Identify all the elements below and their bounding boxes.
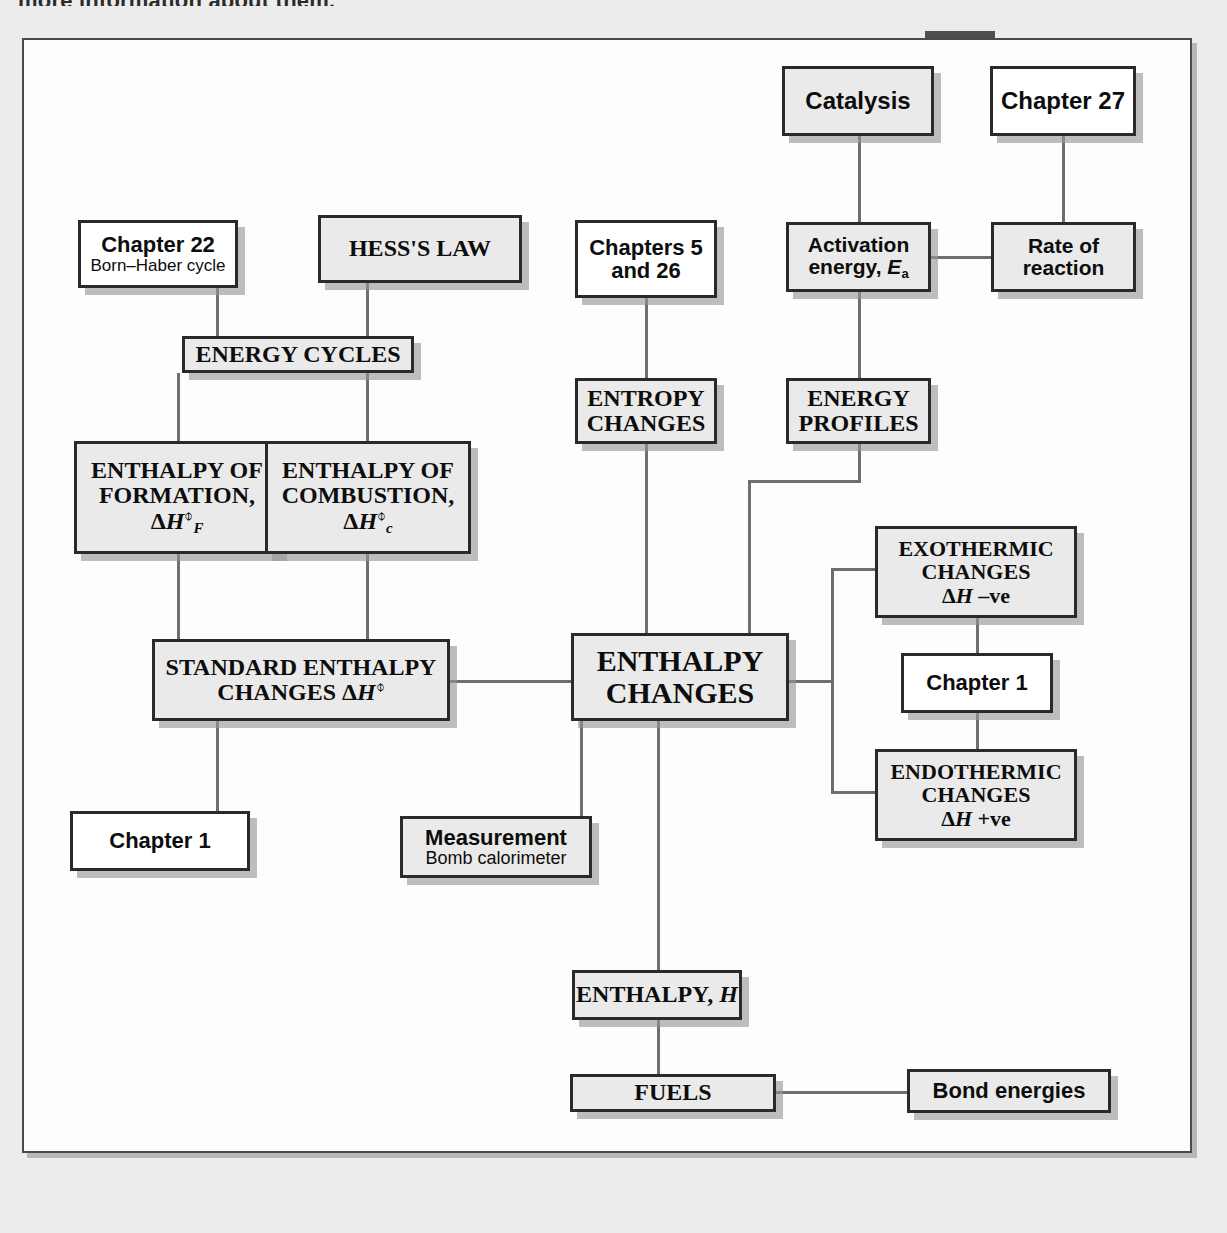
node-chapter-1-left-label: Chapter 1 (109, 829, 210, 852)
page-background: more information about them. (0, 0, 1227, 1233)
node-enthalpy-of-combustion-symbol: ΔH⌽c (343, 509, 392, 537)
node-enthalpy-of-formation-label: ENTHALPY OF (91, 458, 263, 483)
node-bond-energies[interactable]: Bond energies (907, 1069, 1111, 1113)
node-enthalpy-of-combustion-label: ENTHALPY OF (282, 458, 454, 483)
edge-energycycles-combustion (366, 373, 369, 441)
edge-enthalpychanges-enthalpyH (657, 721, 660, 970)
edge-energyprofiles-seg3 (748, 480, 751, 639)
diagram-canvas: Catalysis Chapter 27 Chapter 22 Born–Hab… (0, 0, 1227, 1233)
node-chapter-22-subtitle: Born–Haber cycle (90, 257, 225, 275)
node-energy-profiles-label2: PROFILES (798, 411, 918, 436)
node-activation-energy-label: Activation (808, 234, 910, 256)
node-standard-enthalpy-changes[interactable]: STANDARD ENTHALPY CHANGES ΔH⌽ (152, 639, 450, 721)
edge-standard-enthalpychanges (450, 680, 572, 683)
node-rate-of-reaction[interactable]: Rate of reaction (991, 222, 1136, 292)
edge-standard-chapter1left (216, 721, 219, 811)
edge-chapters5and26-entropy (645, 298, 648, 378)
node-exothermic-changes[interactable]: EXOTHERMIC CHANGES ΔH –ve (875, 526, 1077, 618)
node-chapter-1-right[interactable]: Chapter 1 (901, 653, 1053, 713)
node-energy-profiles[interactable]: ENERGY PROFILES (786, 378, 931, 444)
node-energy-cycles[interactable]: ENERGY CYCLES (182, 336, 414, 373)
node-chapter-1-right-label: Chapter 1 (926, 671, 1027, 694)
edge-bracket-exothermic (831, 568, 877, 571)
node-exothermic-changes-symbol: ΔH –ve (942, 584, 1010, 607)
edge-entropy-enthalpychanges (645, 444, 648, 639)
node-entropy-changes-label2: CHANGES (587, 411, 706, 436)
node-exothermic-changes-label: EXOTHERMIC (898, 537, 1053, 560)
node-endothermic-changes-label2: CHANGES (922, 783, 1031, 806)
edge-activation-rate (931, 256, 991, 259)
node-chapter-22-label: Chapter 22 (101, 233, 215, 256)
node-rate-of-reaction-label2: reaction (1023, 257, 1105, 279)
node-chapter-1-left[interactable]: Chapter 1 (70, 811, 250, 871)
node-measurement-subtitle: Bomb calorimeter (425, 849, 566, 868)
edge-bracket-endothermic (831, 791, 877, 794)
node-enthalpy-of-formation-label2: FORMATION, (99, 483, 255, 508)
edge-chapter1right-endothermic (976, 713, 979, 749)
node-enthalpy-of-formation-symbol: ΔH⌽F (151, 509, 204, 537)
edge-fuels-bondenergies (775, 1091, 909, 1094)
node-endothermic-changes-label: ENDOTHERMIC (890, 760, 1061, 783)
node-chapter-22[interactable]: Chapter 22 Born–Haber cycle (78, 220, 238, 288)
node-standard-enthalpy-changes-label: STANDARD ENTHALPY (166, 655, 437, 680)
node-measurement[interactable]: Measurement Bomb calorimeter (400, 816, 592, 878)
node-energy-profiles-label: ENERGY (807, 386, 910, 411)
node-enthalpy-changes[interactable]: ENTHALPY CHANGES (571, 633, 789, 721)
node-fuels-label: FUELS (634, 1080, 711, 1105)
node-chapter-27[interactable]: Chapter 27 (990, 66, 1136, 136)
edge-energyprofiles-seg2 (748, 480, 861, 483)
node-hess-law-label: HESS'S LAW (349, 236, 491, 261)
node-entropy-changes-label: ENTROPY (587, 386, 704, 411)
edge-activation-energyprofiles (858, 292, 861, 378)
node-fuels[interactable]: FUELS (570, 1074, 776, 1112)
node-activation-energy[interactable]: Activation energy, Ea (786, 222, 931, 292)
edge-chapter22-energycycles (216, 288, 219, 336)
node-energy-cycles-label: ENERGY CYCLES (195, 342, 400, 367)
node-enthalpy-h[interactable]: ENTHALPY, H (572, 970, 742, 1020)
edge-hess-energycycles (366, 283, 369, 336)
edge-enthalpyH-fuels (657, 1020, 660, 1074)
edge-energyprofiles-seg1 (858, 444, 861, 482)
edge-formation-standard (177, 554, 180, 639)
node-chapters-5-and-26-label: Chapters 5 (589, 236, 703, 259)
node-catalysis[interactable]: Catalysis (782, 66, 934, 136)
edge-combustion-standard (366, 554, 369, 639)
node-hess-law[interactable]: HESS'S LAW (318, 215, 522, 283)
node-chapters-5-and-26[interactable]: Chapters 5 and 26 (575, 220, 717, 298)
node-enthalpy-of-combustion-label2: COMBUSTION, (282, 483, 455, 508)
edge-enthalpychanges-bracket-stub (788, 680, 833, 683)
edge-right-bracket-vertical (831, 568, 834, 794)
node-enthalpy-changes-label: ENTHALPY (597, 645, 764, 677)
edge-catalysis-activation (858, 135, 861, 225)
node-enthalpy-of-combustion[interactable]: ENTHALPY OF COMBUSTION, ΔH⌽c (265, 441, 471, 554)
node-exothermic-changes-label2: CHANGES (922, 560, 1031, 583)
node-bond-energies-label: Bond energies (933, 1079, 1086, 1102)
node-chapter-27-label: Chapter 27 (1001, 88, 1125, 113)
node-standard-enthalpy-changes-label2: CHANGES ΔH⌽ (217, 680, 384, 705)
node-measurement-label: Measurement (425, 826, 567, 849)
edge-enthalpychanges-measurement-seg1 (580, 721, 583, 816)
node-rate-of-reaction-label: Rate of (1028, 235, 1099, 257)
node-endothermic-changes-symbol: ΔH +ve (941, 807, 1011, 830)
node-chapters-5-and-26-label2: and 26 (611, 259, 681, 282)
node-activation-energy-label2: energy, Ea (808, 256, 908, 280)
node-entropy-changes[interactable]: ENTROPY CHANGES (575, 378, 717, 444)
node-catalysis-label: Catalysis (805, 88, 910, 113)
node-enthalpy-h-label: ENTHALPY, H (576, 982, 738, 1007)
node-enthalpy-of-formation[interactable]: ENTHALPY OF FORMATION, ΔH⌽F (74, 441, 280, 554)
edge-energycycles-formation (177, 373, 180, 441)
edge-chapter27-rate (1062, 135, 1065, 225)
edge-exothermic-chapter1right (976, 618, 979, 653)
node-enthalpy-changes-label2: CHANGES (606, 677, 754, 709)
node-endothermic-changes[interactable]: ENDOTHERMIC CHANGES ΔH +ve (875, 749, 1077, 841)
